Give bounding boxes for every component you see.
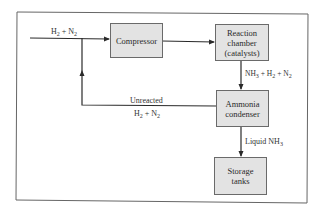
compressor-to-reaction-arrow (162, 41, 214, 42)
storage-label-line2: tanks (232, 176, 250, 186)
reaction-label-line3: (catalysts) (225, 48, 260, 58)
input-label: H2 + N2 (51, 27, 77, 36)
condenser-label-line1: Ammonia (226, 99, 260, 109)
storage-tanks-box: Storage tanks (214, 157, 267, 195)
unreacted-gases-label: H2 + N2 (134, 109, 160, 118)
reaction-label-line2: chamber (227, 38, 256, 48)
compressor-label: Compressor (116, 36, 157, 46)
reaction-label-line1: Reaction (227, 28, 257, 38)
reaction-output-label: NH3 + H2 + N2 (245, 69, 292, 78)
unreacted-label: Unreacted (130, 96, 163, 105)
condenser-label-line2: condenser (225, 109, 259, 119)
ammonia-condenser-box: Ammonia condenser (216, 90, 269, 127)
liquid-ammonia-label: Liquid NH3 (245, 137, 283, 146)
storage-label-line1: Storage (228, 166, 254, 176)
reaction-chamber-box: Reaction chamber (catalysts) (215, 24, 269, 61)
compressor-box: Compressor (110, 23, 163, 58)
input-arrow (30, 38, 109, 39)
